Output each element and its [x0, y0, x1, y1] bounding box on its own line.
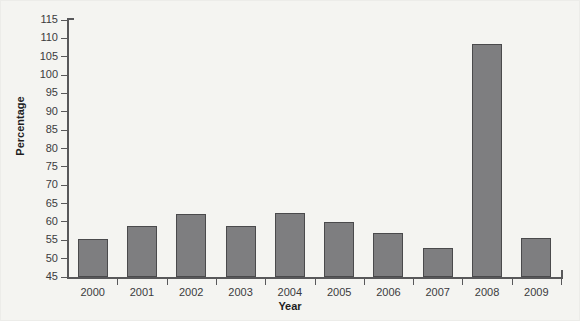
y-axis-tick: [61, 258, 68, 259]
x-axis-tick-label: 2004: [265, 287, 314, 298]
bar-2000: [78, 239, 108, 277]
x-axis-tick-label: 2002: [167, 287, 216, 298]
x-axis-tick: [315, 279, 316, 285]
y-axis-tick-label: 95: [0, 87, 58, 98]
bar-2001: [127, 226, 157, 277]
y-axis-tick-label: 55: [0, 234, 58, 245]
x-axis-tick-label: 2003: [216, 287, 265, 298]
y-axis-tick-label: 100: [0, 69, 58, 80]
x-axis-tick: [413, 279, 414, 285]
y-axis-tick: [61, 166, 68, 167]
bar-2009: [521, 238, 551, 277]
x-axis-end-cap: [561, 270, 563, 279]
y-axis-tick: [61, 75, 68, 76]
x-axis-tick-label: 2008: [462, 287, 511, 298]
x-axis-tick-label: 2009: [512, 287, 561, 298]
y-axis-tick: [61, 56, 68, 57]
bar-2006: [373, 233, 403, 277]
y-axis-tick: [61, 130, 68, 131]
bar-2008: [472, 44, 502, 277]
x-axis-title: Year: [0, 300, 580, 312]
y-axis-tick-label: 70: [0, 179, 58, 190]
y-axis-tick: [61, 93, 68, 94]
y-axis-tick-label: 105: [0, 51, 58, 62]
x-axis-tick: [117, 279, 118, 285]
y-axis-tick: [61, 185, 68, 186]
x-axis-tick: [167, 279, 168, 285]
y-axis-tick-label: 115: [0, 14, 58, 25]
y-axis-tick: [61, 38, 68, 39]
bar-2003: [226, 226, 256, 277]
x-axis-tick-label: 2001: [117, 287, 166, 298]
y-axis-tick: [61, 111, 68, 112]
y-axis-tick: [61, 240, 68, 241]
y-axis-tick: [61, 148, 68, 149]
x-axis-tick: [265, 279, 266, 285]
x-axis-tick: [462, 279, 463, 285]
y-axis-tick-label: 90: [0, 106, 58, 117]
x-axis-tick-label: 2000: [68, 287, 117, 298]
y-axis-tick-label: 50: [0, 253, 58, 264]
y-axis-tick: [61, 221, 68, 222]
bar-2002: [176, 214, 206, 277]
x-axis-tick: [561, 279, 562, 285]
y-axis-tick-label: 110: [0, 32, 58, 43]
y-axis-tick-label: 60: [0, 216, 58, 227]
y-axis-tick: [61, 277, 68, 278]
bar-2004: [275, 213, 305, 277]
bar-2007: [423, 248, 453, 277]
y-axis-top-cap: [67, 18, 74, 20]
x-axis-tick: [512, 279, 513, 285]
y-axis-tick: [61, 20, 68, 21]
y-axis-tick-label: 65: [0, 198, 58, 209]
bar-chart: 4550556065707580859095100105110115 20002…: [0, 0, 580, 321]
x-axis-tick: [216, 279, 217, 285]
y-axis-tick-label: 45: [0, 271, 58, 282]
y-axis-tick: [61, 203, 68, 204]
y-axis-tick-label: 85: [0, 124, 58, 135]
y-axis-tick-label: 75: [0, 161, 58, 172]
x-axis-tick-label: 2007: [413, 287, 462, 298]
y-axis-tick-label: 80: [0, 143, 58, 154]
y-axis-title: Percentage: [14, 76, 26, 176]
x-axis-tick: [364, 279, 365, 285]
bar-2005: [324, 222, 354, 277]
x-axis-tick-label: 2005: [315, 287, 364, 298]
x-axis-tick-label: 2006: [364, 287, 413, 298]
